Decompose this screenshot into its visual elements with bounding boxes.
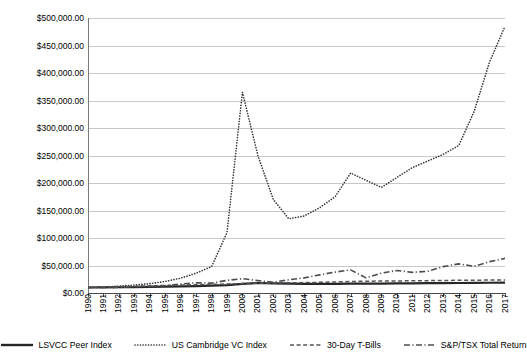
dotted-line-icon [134, 340, 168, 350]
legend-item[interactable]: US Cambridge VC Index [134, 340, 267, 350]
x-axis-tick-label: 2002 [269, 294, 278, 313]
y-axis-tick-label: $450,000.00 [0, 41, 84, 50]
chart-legend: LSVCC Peer IndexUS Cambridge VC Index30-… [0, 336, 527, 353]
legend-item[interactable]: LSVCC Peer Index [0, 340, 111, 350]
x-axis-tick-label: 2011 [408, 294, 417, 312]
solid-line-icon [0, 340, 34, 350]
series-container [88, 18, 505, 293]
x-axis-tick-label: 1992 [114, 294, 123, 313]
x-axis-tick-label: 2009 [377, 294, 386, 313]
x-axis-tick-label: 2000 [238, 294, 247, 313]
legend-label: 30-Day T-Bills [327, 340, 381, 350]
y-axis-tick-label: $400,000.00 [0, 69, 84, 78]
y-axis-tick-label: $0.00 [0, 289, 84, 298]
y-axis-tick-label: $50,000.00 [0, 261, 84, 270]
y-axis-tick-label: $350,000.00 [0, 96, 84, 105]
legend-label: LSVCC Peer Index [38, 340, 111, 350]
y-axis-tick-label: $200,000.00 [0, 179, 84, 188]
x-axis-tick-label: 2013 [439, 294, 448, 313]
x-axis-tick-label: 1998 [207, 294, 216, 313]
x-axis-tick-label: 2016 [485, 294, 494, 313]
x-axis-tick-label: 1996 [176, 294, 185, 313]
y-axis-tick-label: $300,000.00 [0, 124, 84, 133]
x-axis-tick-label: 2004 [300, 294, 309, 313]
x-axis-tick-label: 1999 [223, 294, 232, 313]
x-axis-tick-label: 2008 [362, 294, 371, 313]
x-axis-tick-label: 2003 [284, 294, 293, 313]
y-axis-tick-label: $100,000.00 [0, 234, 84, 243]
y-axis-tick-label: $250,000.00 [0, 151, 84, 160]
legend-label: S&P/TSX Total Return [441, 340, 527, 350]
x-axis-tick-label: 2007 [346, 294, 355, 313]
y-axis-tick-labels: $0.00$50,000.00$100,000.00$150,000.00$20… [0, 0, 84, 353]
legend-label: US Cambridge VC Index [172, 340, 267, 350]
dashdot-line-icon [403, 340, 437, 350]
x-axis-tick-label: 2012 [423, 294, 432, 313]
x-axis-tick-label: 1991 [99, 294, 108, 313]
series-line [88, 26, 505, 287]
line-chart: $0.00$50,000.00$100,000.00$150,000.00$20… [0, 0, 527, 353]
legend-item[interactable]: 30-Day T-Bills [289, 340, 381, 350]
x-axis-tick-label: 1997 [192, 294, 201, 313]
x-axis-tick-label: 2005 [315, 294, 324, 313]
x-axis-tick-label: 2010 [392, 294, 401, 313]
x-axis-tick-label: 1994 [145, 294, 154, 313]
x-axis-tick-label: 2006 [331, 294, 340, 313]
y-axis-tick-label: $500,000.00 [0, 14, 84, 23]
dashed-line-icon [289, 340, 323, 350]
y-axis-tick-label: $150,000.00 [0, 206, 84, 215]
x-axis-tick-label: 1995 [161, 294, 170, 313]
x-axis-tick-label: 1990 [84, 294, 93, 313]
legend-item[interactable]: S&P/TSX Total Return [403, 340, 527, 350]
x-axis-tick-label: 1993 [130, 294, 139, 313]
x-axis-tick-label: 2015 [470, 294, 479, 313]
x-axis-tick-label: 2014 [454, 294, 463, 313]
x-axis-tick-labels: 1990199119921993199419951996199719981999… [88, 294, 505, 334]
x-axis-tick-label: 2001 [253, 294, 262, 313]
x-axis-tick-label: 2017 [501, 294, 510, 313]
